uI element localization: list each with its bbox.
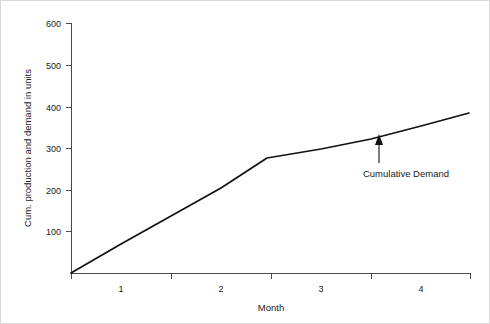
y-tick-label-100: 100 <box>46 227 61 237</box>
x-axis-title: Month <box>258 302 284 313</box>
annotation-label-cumulative-demand: Cumulative Demand <box>363 168 449 179</box>
y-tick-label-600: 600 <box>46 19 61 29</box>
y-tick-label-300: 300 <box>46 144 61 154</box>
y-tick-label-500: 500 <box>46 61 61 71</box>
cumulative-demand-line-chart: 600 500 400 300 200 100 1 2 3 4 Month Cu… <box>1 1 490 324</box>
x-tick-label-2: 2 <box>218 284 223 294</box>
y-tick-label-400: 400 <box>46 103 61 113</box>
x-tick-label-3: 3 <box>318 284 323 294</box>
chart-background <box>1 1 490 324</box>
chart-page: 600 500 400 300 200 100 1 2 3 4 Month Cu… <box>0 0 490 324</box>
x-tick-label-1: 1 <box>118 284 123 294</box>
y-tick-label-200: 200 <box>46 186 61 196</box>
x-tick-label-4: 4 <box>418 284 423 294</box>
y-axis-title: Cum. production and demand in units <box>22 69 33 227</box>
